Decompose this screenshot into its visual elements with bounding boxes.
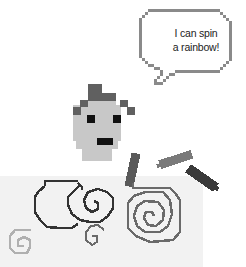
spiral-icon (128, 183, 180, 242)
speech-line-2: a rainbow! (160, 40, 232, 54)
speech-line-1: I can spin (160, 26, 232, 40)
speech-bubble-text: I can spin a rainbow! (160, 26, 232, 54)
crayon-icon (185, 164, 219, 192)
crayon-icon (156, 150, 193, 169)
spiral-icon (45, 183, 113, 222)
eye-icon (113, 115, 121, 123)
spiral-icon (10, 230, 31, 253)
spiral-icon (86, 225, 104, 245)
eye-icon (87, 115, 95, 123)
mouth-icon (97, 138, 113, 145)
crayon-icon (125, 152, 141, 187)
pixel-character-icon (73, 84, 135, 161)
